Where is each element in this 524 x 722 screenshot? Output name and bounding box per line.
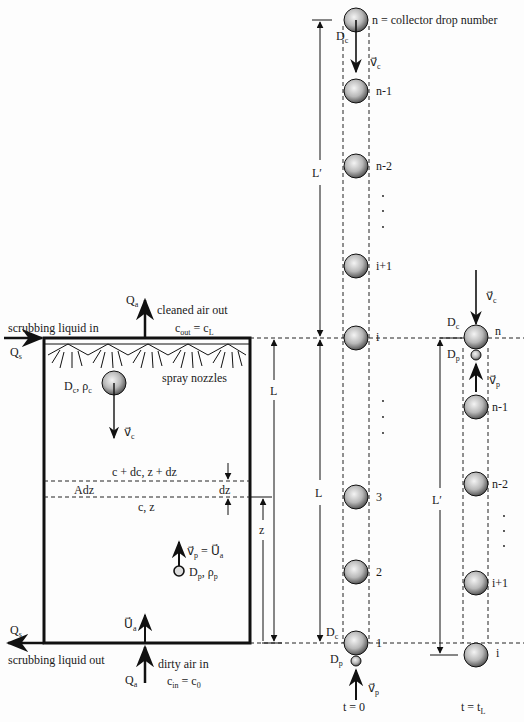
liquid-in-flow-label: Qs [10, 345, 22, 361]
t0-top-Dc-label: Dc [336, 29, 349, 45]
vessel-height-dimension: L [270, 340, 277, 641]
drop-column-t0: L′ L [312, 8, 384, 700]
spray-nozzles-label: spray nozzles [162, 371, 227, 385]
collector-label: Dc, ρc [64, 379, 92, 395]
tL-drop-n-label: n [495, 324, 501, 338]
t0-vc-label: v⃗c [370, 55, 381, 71]
scrubber-diagram: spray nozzles scrubbing liquid in Qs Qa … [0, 0, 524, 722]
particle-velocity-label: v⃗p = U⃗a [187, 543, 224, 560]
tL-Dc-label: Dc [447, 315, 460, 331]
t0-drop-n-2-label: n-2 [376, 159, 392, 173]
tL-time-label: t = tL [461, 700, 485, 716]
t0-drop-n-1-label: n-1 [376, 84, 392, 98]
z-label: z [259, 523, 264, 537]
t0-Dp-label: Dp [330, 652, 343, 668]
t0-drop-3-label: 3 [376, 490, 382, 504]
drop-3-icon [344, 485, 368, 509]
tL-drop-i-plus-1-label: i+1 [492, 576, 508, 590]
c-in-label: cin = c0 [167, 674, 201, 690]
drop-n-2-icon [344, 154, 368, 178]
drop-n-1-icon [344, 79, 368, 103]
tL-drop-i-icon [464, 643, 488, 667]
collector-velocity-label: v⃗c [124, 425, 135, 441]
slice-area-label: Adz [74, 483, 94, 497]
tL-vc-label: v⃗c [486, 289, 497, 305]
dz-label: dz [219, 483, 230, 497]
liquid-out-label: scrubbing liquid out [8, 653, 105, 667]
t0-drop-i-plus-1-label: i+1 [376, 259, 392, 273]
particle-tL-icon [471, 350, 481, 360]
dirty-air-flow-label: Qa [125, 673, 138, 689]
particle-t0-icon [351, 656, 361, 666]
drop-column-tL: L′ [430, 270, 505, 667]
nozzle-5-icon [213, 350, 242, 368]
t0-drop-1-label: 1 [376, 636, 382, 650]
clean-air-label: cleaned air out [157, 303, 228, 317]
air-velocity-label: U⃗a [124, 616, 137, 633]
tL-drop-n-icon [464, 325, 488, 349]
tL-Dp-label: Dp [447, 347, 460, 363]
t0-time-label: t = 0 [343, 700, 365, 714]
tL-drop-i-plus-1-icon [464, 571, 488, 595]
dirty-air-label: dirty air in [158, 657, 209, 671]
tL-drop-n-2-icon [464, 472, 488, 496]
nozzle-2-icon [93, 350, 122, 368]
t0-L-label: L [315, 486, 322, 500]
tL-vp-label: v⃗p [489, 373, 500, 389]
particle-icon [174, 566, 184, 576]
t0-drop-i-label: i [376, 330, 380, 344]
slice-top-label: c + dc, z + dz [112, 465, 177, 479]
tL-Lprime-label: L′ [432, 493, 442, 507]
t0-vp-label: v⃗p [368, 681, 379, 697]
tL-drop-n-1-icon [464, 395, 488, 419]
spray-nozzles [48, 344, 246, 368]
drop-i-plus-1-icon [344, 254, 368, 278]
nozzle-3-icon [133, 350, 162, 368]
liquid-out-flow-label: Qs [10, 623, 22, 639]
tL-drop-i-label: i [496, 646, 500, 660]
drop-2-icon [344, 560, 368, 584]
z-dimension: z [259, 499, 264, 641]
tL-drop-n-2-label: n-2 [492, 477, 508, 491]
particle-label: Dp, ρp [189, 565, 218, 581]
t0-drop-2-label: 2 [376, 565, 382, 579]
vessel-height-label: L [270, 384, 277, 398]
slice-bottom-label: c, z [138, 500, 155, 514]
nozzle-4-icon [173, 350, 202, 368]
t0-Dc-label: Dc [326, 625, 339, 641]
tL-drop-n-1-label: n-1 [492, 400, 508, 414]
t0-Lprime-label: L′ [312, 166, 322, 180]
drop-i-icon [344, 326, 368, 350]
drop-1-icon [344, 631, 368, 655]
nozzle-1-icon [52, 350, 82, 368]
t0-drop-n-label: n = collector drop number [372, 13, 497, 27]
c-out-label: cout = cL [175, 321, 214, 337]
clean-air-flow-label: Qa [126, 293, 139, 309]
liquid-in-label: scrubbing liquid in [8, 321, 99, 335]
